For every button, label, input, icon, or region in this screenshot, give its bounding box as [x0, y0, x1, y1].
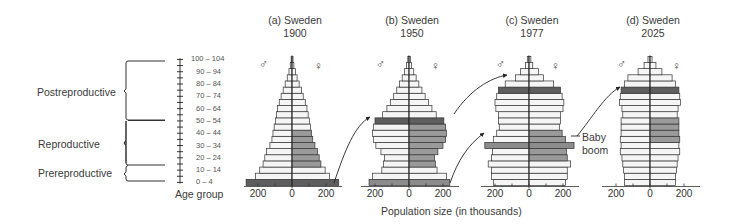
bar-male	[375, 118, 409, 124]
bar-male	[625, 81, 651, 87]
bar-female	[409, 87, 422, 93]
bar-male	[372, 130, 409, 136]
age-tick-label: 20 – 24	[196, 153, 221, 162]
bar-male	[381, 149, 409, 155]
bar-male	[492, 149, 529, 155]
bar-male	[289, 69, 292, 75]
x-tick-label: 0	[394, 188, 424, 199]
bar-male	[384, 161, 410, 167]
bar-female	[529, 155, 567, 161]
bar-female	[650, 167, 676, 173]
bar-male	[488, 161, 529, 167]
bar-male	[260, 167, 292, 173]
bar-female	[292, 130, 312, 136]
pyramids	[244, 55, 700, 188]
bar-male	[397, 87, 409, 93]
label-prereproductive: Prereproductive	[38, 167, 112, 179]
bar-female	[409, 155, 435, 161]
label-postreproductive: Postreproductive	[37, 86, 116, 98]
female-symbol-icon: ♀	[672, 59, 681, 73]
bar-male	[402, 75, 409, 81]
bar-male	[498, 112, 529, 118]
bar-male	[495, 99, 529, 105]
bar-male	[399, 81, 409, 87]
x-tick-label: 200	[311, 188, 341, 199]
bar-male	[621, 87, 650, 93]
bar-male	[620, 136, 650, 142]
bar-female	[650, 81, 676, 87]
bar-male	[620, 93, 650, 99]
bar-female	[529, 106, 563, 112]
bar-male	[515, 75, 529, 81]
bar-female	[292, 69, 295, 75]
bar-female	[409, 118, 444, 124]
bar-female	[650, 155, 678, 161]
bar-male	[622, 106, 650, 112]
baby-boom-line2: boom	[582, 144, 608, 157]
bar-male	[382, 167, 409, 173]
age-tick-label: 50 – 54	[196, 116, 221, 125]
bar-male	[373, 124, 409, 130]
bar-female	[650, 130, 679, 136]
bar-male	[496, 106, 529, 112]
bar-male	[278, 106, 292, 112]
age-tick-label: 30 – 34	[196, 141, 221, 150]
bar-male	[274, 124, 292, 130]
population-pyramids-figure: Postreproductive Reproductive Prereprodu…	[0, 0, 732, 224]
bar-male	[373, 136, 409, 142]
bar-male	[526, 63, 529, 69]
x-tick-label: 200	[548, 188, 578, 199]
panel-title-year: 1977	[487, 27, 577, 40]
bar-male	[624, 167, 650, 173]
bar-male	[492, 173, 529, 179]
bar-female	[409, 93, 425, 99]
bar-male	[644, 63, 650, 69]
bar-male	[521, 69, 530, 75]
x-tick-label: 200	[360, 188, 390, 199]
bar-male	[497, 93, 529, 99]
bar-female	[292, 112, 308, 118]
male-symbol-icon: ♂	[259, 57, 268, 71]
panel-title-c: (c) Sweden1977	[487, 14, 577, 40]
bar-female	[292, 106, 307, 112]
bar-female	[409, 75, 416, 81]
bar-male	[485, 142, 529, 148]
panel-title-b: (b) Sweden1950	[367, 14, 457, 40]
bar-female	[529, 75, 543, 81]
bar-female	[409, 99, 429, 105]
bar-female	[292, 118, 309, 124]
bar-female	[292, 87, 301, 93]
bar-female	[529, 93, 562, 99]
pyramid-d	[602, 55, 700, 188]
bar-male	[270, 142, 292, 148]
bar-male	[283, 87, 292, 93]
bar-female	[292, 161, 321, 167]
male-symbol-icon: ♂	[496, 57, 505, 71]
bar-female	[292, 93, 303, 99]
bar-female	[529, 149, 566, 155]
bar-male	[279, 99, 292, 105]
bar-male	[625, 173, 651, 179]
bar-female	[650, 173, 676, 179]
bar-male	[246, 179, 292, 185]
bar-female	[409, 130, 446, 136]
bar-male	[272, 136, 292, 142]
bar-female	[650, 124, 679, 130]
bar-female	[409, 112, 436, 118]
bar-male	[497, 130, 529, 136]
bar-female	[529, 142, 574, 148]
x-tick-label: 200	[480, 188, 510, 199]
bar-male	[621, 124, 650, 130]
bar-male	[267, 149, 293, 155]
x-tick-label: 200	[428, 188, 458, 199]
bar-male	[383, 112, 409, 118]
bar-female	[650, 161, 677, 167]
age-axis	[177, 58, 183, 183]
bar-male	[498, 118, 529, 124]
bar-female	[409, 167, 437, 173]
bar-female	[292, 99, 305, 105]
bar-male	[265, 155, 292, 161]
panel-title-a: (a) Sweden1900	[250, 14, 340, 40]
bar-male	[287, 75, 292, 81]
bar-male	[498, 87, 529, 93]
